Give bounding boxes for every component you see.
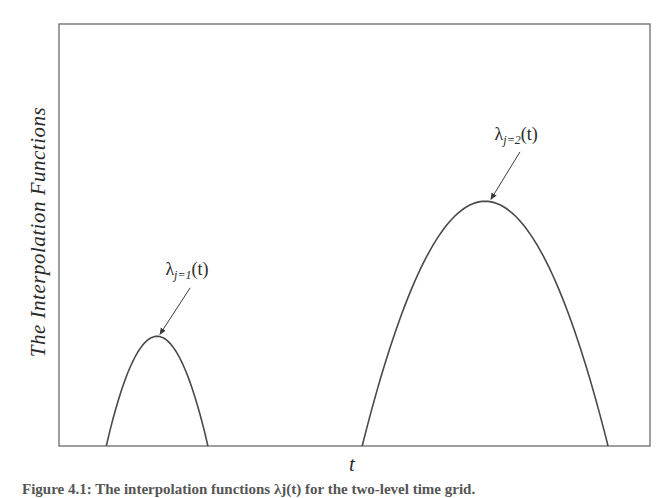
curve-label-2: λj=2(t) bbox=[495, 124, 538, 147]
figure-caption: Figure 4.1: The interpolation functions … bbox=[22, 481, 475, 498]
annotation-arrow-1 bbox=[160, 288, 190, 334]
curve-lambda-2 bbox=[362, 201, 608, 446]
annotation-layer: λj=1(t)λj=2(t) bbox=[160, 124, 538, 334]
curve-label-1: λj=1(t) bbox=[165, 259, 208, 282]
x-axis-label: t bbox=[349, 452, 355, 477]
series-layer bbox=[106, 201, 608, 446]
y-axis-label: The Interpolation Functions bbox=[26, 107, 51, 357]
annotation-arrow-2 bbox=[491, 152, 520, 199]
curve-lambda-1 bbox=[106, 336, 208, 446]
plot-frame bbox=[59, 24, 650, 446]
